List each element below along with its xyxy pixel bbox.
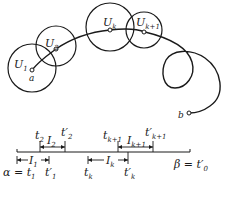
interval-i2: I2 t2 t′2 — [35, 126, 73, 152]
label-uk: Uk — [103, 16, 117, 31]
interval-ik1: Ik+1 tk+1 t′k+1 — [103, 126, 166, 152]
point-a — [30, 68, 34, 72]
svg-text:t′2: t′2 — [61, 126, 73, 141]
curve-path — [32, 29, 220, 113]
label-b: b — [178, 110, 184, 120]
svg-text:t′k: t′k — [124, 166, 135, 181]
interval-ik: Ik tk t′k — [84, 152, 135, 181]
curve-cover-diagram: U1 U2 Uk Uk+1 a b I1 I2 t2 t′2 Ik tk t′k — [0, 0, 230, 201]
svg-text:Ik: Ik — [105, 154, 115, 169]
svg-text:tk: tk — [84, 166, 93, 181]
label-uk1: Uk+1 — [136, 16, 160, 31]
label-u2: U2 — [45, 37, 59, 52]
label-beta: β = t′0 — [173, 158, 209, 173]
svg-text:t′k+1: t′k+1 — [145, 126, 166, 141]
svg-text:I2: I2 — [46, 134, 56, 149]
label-u1: U1 — [14, 58, 28, 73]
label-t1-prime: t′1 — [45, 166, 56, 181]
label-a: a — [29, 73, 34, 83]
svg-text:t2: t2 — [35, 129, 44, 144]
point-b — [187, 111, 191, 115]
label-alpha: α = t1 — [3, 166, 36, 181]
svg-text:Ik+1: Ik+1 — [126, 134, 146, 149]
svg-text:tk+1: tk+1 — [103, 129, 122, 144]
